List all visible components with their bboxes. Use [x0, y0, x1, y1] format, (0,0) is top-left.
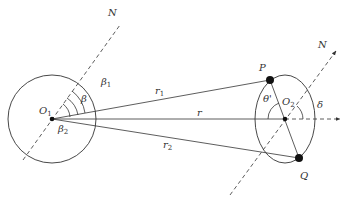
label-r2: r2 [163, 139, 172, 152]
arc-theta-prime [268, 103, 279, 119]
label-delta: δ [317, 99, 323, 110]
label-n-right: N [317, 39, 328, 50]
label-q: Q [300, 170, 308, 181]
line-r2 [52, 119, 299, 158]
label-r: r [197, 107, 203, 118]
north-line-left [23, 25, 120, 160]
label-beta: β [80, 93, 87, 104]
label-o2: O2 [282, 96, 295, 109]
point-q [295, 154, 303, 162]
north-line-right [230, 51, 336, 195]
label-r1: r1 [155, 85, 164, 98]
arc-delta [297, 106, 303, 119]
point-p [266, 76, 274, 84]
label-beta1: β1 [100, 76, 111, 89]
label-o1: O1 [39, 105, 52, 118]
label-n-left: N [107, 7, 118, 18]
o2-point [283, 117, 288, 122]
label-beta2: β2 [57, 123, 68, 136]
label-theta-prime: θ' [263, 93, 272, 104]
arc-beta2 [63, 104, 70, 117]
label-p: P [258, 62, 266, 73]
geometry-diagram: N N O1 O2 P Q r r1 r2 β β1 β2 θ' δ [0, 0, 346, 207]
arc-beta [67, 98, 78, 115]
